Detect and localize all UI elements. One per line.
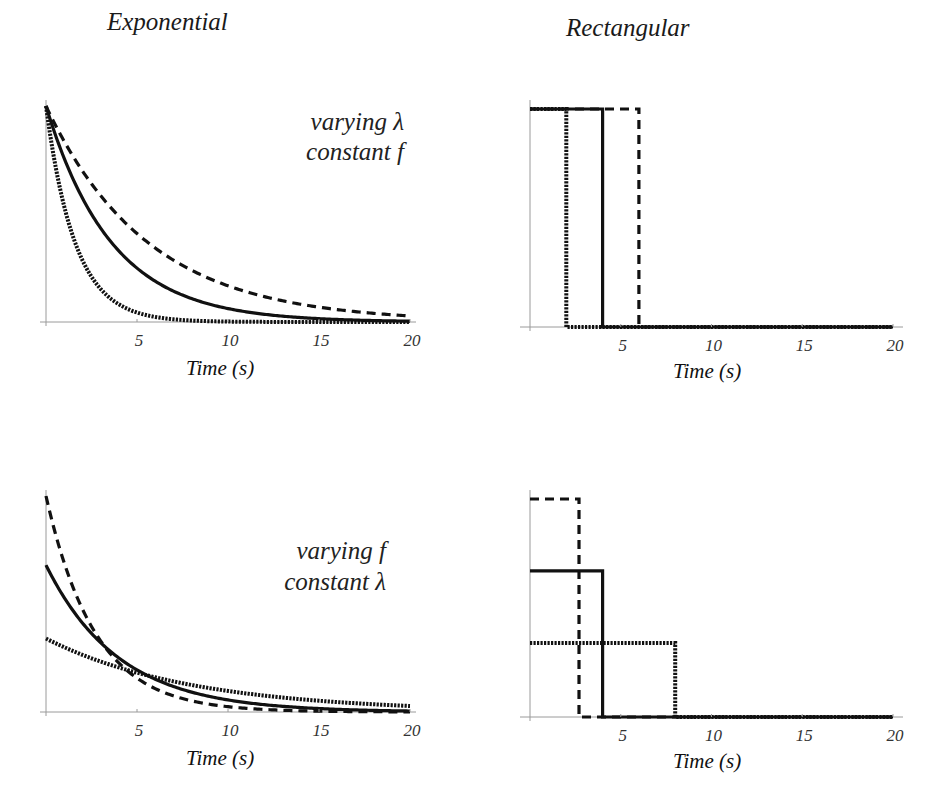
x-tick-label: 20 bbox=[887, 726, 905, 745]
series-solid-line bbox=[530, 109, 893, 327]
panel-exp-varying-f: 5101520 Time (s) varying f constant λ bbox=[40, 490, 421, 770]
x-tick-label: 10 bbox=[705, 726, 723, 745]
x-tick-label: 10 bbox=[222, 331, 240, 350]
x-tick-label: 10 bbox=[705, 336, 723, 355]
series-dashed-line bbox=[530, 499, 893, 717]
panel-exp-varying-lambda: 5101520 Time (s) varying λ constant f bbox=[40, 100, 421, 380]
figure: 5101520 Time (s) varying λ constant f 51… bbox=[0, 0, 930, 796]
panel-rect-varying-lambda: 5101520 Time (s) bbox=[520, 100, 904, 383]
annotation-line-2: constant f bbox=[306, 138, 407, 165]
x-axis-title: Time (s) bbox=[186, 746, 254, 770]
annotation-line-2: constant λ bbox=[284, 568, 386, 595]
x-tick-label: 15 bbox=[313, 331, 330, 350]
series-dotted-line bbox=[530, 109, 893, 327]
annotation-line-1: varying f bbox=[296, 537, 389, 564]
x-tick-label: 5 bbox=[619, 726, 628, 745]
x-tick-label: 20 bbox=[404, 331, 422, 350]
series-dotted-line bbox=[46, 639, 410, 706]
x-tick-label: 5 bbox=[135, 331, 144, 350]
series-dotted-line bbox=[530, 643, 893, 717]
x-tick-label: 15 bbox=[796, 336, 813, 355]
x-tick-label: 10 bbox=[222, 721, 240, 740]
x-axis-title: Time (s) bbox=[673, 359, 741, 383]
x-tick-label: 5 bbox=[619, 336, 628, 355]
series-dashed-line bbox=[46, 496, 410, 712]
x-tick-label: 15 bbox=[313, 721, 330, 740]
x-tick-label: 20 bbox=[404, 721, 422, 740]
x-tick-label: 20 bbox=[887, 336, 905, 355]
x-tick-label: 5 bbox=[135, 721, 144, 740]
panel-rect-varying-f: 5101520 Time (s) bbox=[520, 490, 904, 773]
series-dashed-line bbox=[530, 109, 893, 327]
annotation-line-1: varying λ bbox=[311, 108, 405, 135]
x-axis-title: Time (s) bbox=[673, 749, 741, 773]
x-axis-title: Time (s) bbox=[186, 356, 254, 380]
x-tick-label: 15 bbox=[796, 726, 813, 745]
